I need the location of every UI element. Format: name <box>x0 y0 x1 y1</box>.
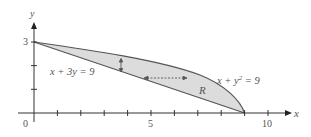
region-label: R <box>198 84 206 96</box>
x-tick-label-0: 0 <box>23 118 28 129</box>
line-equation-label: x + 3y = 9 <box>49 66 95 77</box>
x-axis-label: x <box>293 107 299 119</box>
x-axis-arrow-icon <box>285 110 292 116</box>
x-tick-label-5: 5 <box>148 118 153 129</box>
parabola-equation-label: x + y2 = 9 <box>216 74 260 86</box>
y-axis-arrow-icon <box>31 22 37 29</box>
line-x-plus-3y-eq-9 <box>34 42 245 113</box>
y-axis-label: y <box>29 8 35 19</box>
region-diagram: y x 3 0 5 10 x + 3y = 9 x + y2 = 9 R <box>0 0 311 137</box>
x-tick-label-10: 10 <box>262 118 272 129</box>
y-tick-label-3: 3 <box>23 36 28 47</box>
